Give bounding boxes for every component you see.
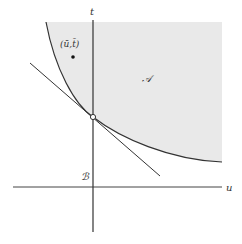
u-axis-label: u: [226, 182, 232, 193]
t-axis-label: t: [90, 6, 95, 17]
point-label: (ū,t̄): [60, 38, 80, 49]
touch-point-marker: [90, 114, 95, 119]
region-b-label: ℬ: [81, 171, 90, 182]
figure: t u (ū,t̄) 𝒜 ℬ: [0, 0, 242, 244]
point-ubar-tbar-dot: [71, 55, 75, 59]
